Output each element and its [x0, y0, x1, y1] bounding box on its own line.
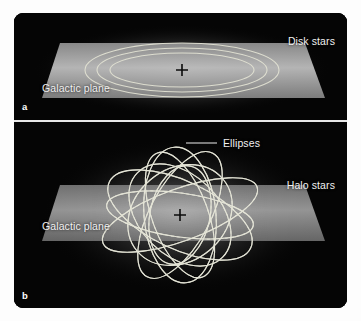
divider-rule — [14, 120, 347, 122]
panel-letter-b: b — [22, 290, 28, 301]
label-disk-stars: Disk stars — [288, 35, 335, 47]
label-ellipses: Ellipses — [223, 137, 260, 149]
panel-disk-stars: Disk stars Galactic plane a — [14, 13, 347, 119]
label-galactic-plane-b: Galactic plane — [42, 220, 110, 232]
label-galactic-plane-a: Galactic plane — [42, 82, 110, 94]
panel-stack: Disk stars Galactic plane a — [14, 13, 347, 308]
panel-letter-a: a — [22, 101, 27, 112]
figure-root: Disk stars Galactic plane a — [0, 0, 361, 321]
label-halo-stars: Halo stars — [287, 179, 335, 191]
panel-a-graphic — [14, 13, 347, 119]
panel-halo-stars: Ellipses Halo stars Galactic plane b — [14, 123, 347, 308]
panel-b-graphic — [14, 123, 347, 308]
